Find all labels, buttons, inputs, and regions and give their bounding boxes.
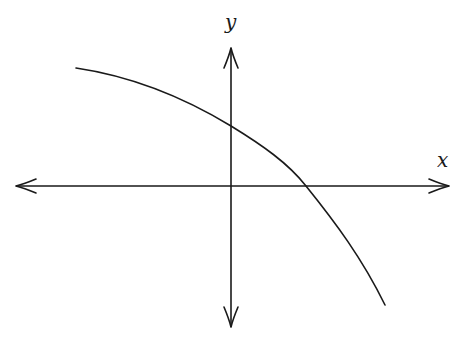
x-axis (16, 179, 449, 193)
coordinate-graph (0, 0, 460, 342)
y-axis-label: y (225, 12, 236, 32)
y-axis (224, 48, 238, 327)
x-axis-label: x (437, 150, 448, 170)
